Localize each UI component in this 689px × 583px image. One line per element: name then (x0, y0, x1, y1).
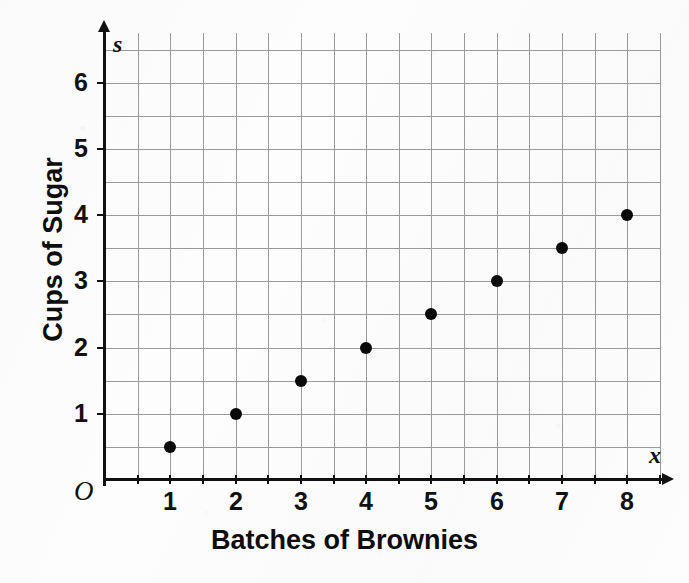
gridline-vertical (399, 33, 400, 480)
gridline-vertical (203, 33, 204, 480)
x-axis-tick-label: 4 (349, 489, 383, 514)
x-axis-tick (235, 475, 237, 484)
x-axis-tick (137, 475, 139, 484)
x-axis-tick (463, 475, 465, 484)
gridline-horizontal (105, 182, 660, 183)
x-axis-tick-label: 1 (153, 489, 187, 514)
gridline-vertical (170, 33, 171, 480)
gridline-vertical (595, 33, 596, 480)
y-axis-tick (97, 82, 106, 84)
y-axis-line (103, 30, 106, 486)
y-axis-tick (97, 347, 106, 349)
gridline-vertical (431, 33, 432, 480)
y-axis-title: Cups of Sugar (40, 120, 67, 380)
gridline-horizontal (105, 314, 660, 315)
gridline-vertical (464, 33, 465, 480)
data-point (491, 275, 503, 287)
x-axis-tick (169, 475, 171, 484)
x-axis-variable-label: x (649, 443, 661, 467)
x-axis-tick-label: 6 (480, 489, 514, 514)
x-axis-tick (626, 475, 628, 484)
x-axis-arrow-icon (662, 473, 674, 485)
gridline-horizontal (105, 149, 660, 150)
x-axis-tick-label: 3 (284, 489, 318, 514)
y-axis-tick-label: 1 (54, 401, 88, 426)
gridline-horizontal (105, 248, 660, 249)
x-axis-tick (267, 475, 269, 484)
x-axis-tick (398, 475, 400, 484)
gridline-vertical (334, 33, 335, 480)
x-axis-tick (561, 475, 563, 484)
y-axis-variable-label: s (113, 32, 122, 56)
x-axis-tick (300, 475, 302, 484)
gridline-vertical (562, 33, 563, 480)
y-axis-tick (97, 148, 106, 150)
gridline-horizontal (105, 414, 660, 415)
x-axis-tick-label: 2 (219, 489, 253, 514)
x-axis-tick (528, 475, 530, 484)
gridline-horizontal (105, 447, 660, 448)
gridline-vertical (497, 33, 498, 480)
data-point (230, 408, 242, 420)
data-point (295, 375, 307, 387)
x-axis-tick (333, 475, 335, 484)
x-axis-tick-label: 7 (545, 489, 579, 514)
data-point (360, 342, 372, 354)
gridline-horizontal (105, 381, 660, 382)
x-axis-tick (594, 475, 596, 484)
y-axis-tick-label: 6 (54, 70, 88, 95)
x-axis-tick (496, 475, 498, 484)
x-axis-title: Batches of Brownies (0, 527, 689, 554)
x-axis-line (103, 478, 665, 481)
gridline-vertical (660, 33, 661, 480)
gridline-horizontal (105, 116, 660, 117)
y-axis-tick (97, 214, 106, 216)
gridline-horizontal (105, 83, 660, 84)
x-axis-tick (659, 475, 661, 484)
y-axis-tick (97, 413, 106, 415)
gridline-vertical (138, 33, 139, 480)
origin-label: O (74, 478, 94, 505)
gridline-vertical (268, 33, 269, 480)
gridline-horizontal (105, 50, 660, 51)
gridline-vertical (529, 33, 530, 480)
x-axis-tick (202, 475, 204, 484)
x-axis-tick-label: 8 (610, 489, 644, 514)
gridline-horizontal (105, 281, 660, 282)
scatter-plot-figure: 12345612345678 s x O Cups of Sugar Batch… (0, 0, 689, 583)
gridline-horizontal (105, 348, 660, 349)
gridline-horizontal (105, 215, 660, 216)
x-axis-tick-label: 5 (414, 489, 448, 514)
gridline-vertical (366, 33, 367, 480)
y-axis-arrow-icon (98, 20, 110, 32)
x-axis-tick (365, 475, 367, 484)
plot-area (105, 33, 660, 480)
gridline-vertical (301, 33, 302, 480)
x-axis-tick (430, 475, 432, 484)
grid (105, 33, 660, 480)
y-axis-tick (97, 280, 106, 282)
gridline-vertical (627, 33, 628, 480)
